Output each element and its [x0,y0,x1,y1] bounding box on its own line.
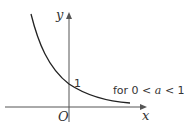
graph-canvas [0,0,185,129]
condition-suffix: < 1 [161,84,184,97]
y-axis-arrow-icon [66,12,72,19]
origin-label: O [58,110,69,123]
x-axis-label: x [142,109,149,122]
condition-label: for 0 < a < 1 [113,85,185,96]
y-axis-label: y [56,8,63,21]
condition-prefix: for 0 < [113,84,155,97]
y-intercept-label: 1 [74,78,81,89]
